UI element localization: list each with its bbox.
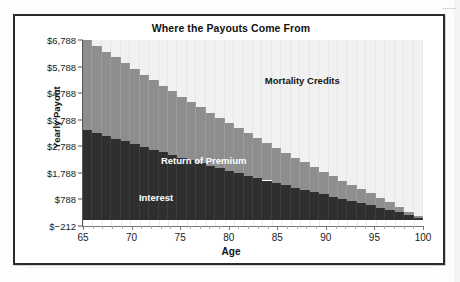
bar-segment-return-of-premium — [83, 40, 92, 130]
bar-segment-interest — [319, 194, 328, 220]
bar-segment-return-of-premium — [234, 128, 243, 173]
bar-segment-interest — [366, 205, 375, 220]
page-scan-edge — [454, 0, 460, 282]
bar-segment-mortality-credits — [168, 40, 177, 91]
y-axis-tick-mark — [78, 172, 83, 173]
bar-column — [92, 40, 101, 226]
bar-segment-mortality-credits — [319, 40, 328, 172]
bar-segment-interest — [385, 210, 394, 220]
bar-segment-return-of-premium — [159, 86, 168, 153]
x-axis-tick-minor — [112, 226, 113, 229]
bar-segment-return-of-premium — [414, 216, 423, 218]
bar-segment-mortality-credits — [130, 40, 139, 69]
bar-segment-interest — [130, 144, 139, 220]
bar-segment-interest — [102, 136, 111, 221]
bar-segment-interest — [177, 158, 186, 221]
x-axis-tick-minor — [170, 226, 171, 229]
bar-column — [310, 40, 319, 226]
bar-segment-mortality-credits — [272, 40, 281, 148]
bar-column — [329, 40, 338, 226]
bar-segment-mortality-credits — [196, 40, 205, 107]
x-axis-tick-minor — [151, 226, 152, 229]
bar-column — [366, 40, 375, 226]
x-axis-tick-minor — [345, 226, 346, 229]
bar-segment-return-of-premium — [338, 181, 347, 199]
bar-segment-return-of-premium — [385, 202, 394, 210]
bar-segment-mortality-credits — [262, 40, 271, 143]
bar-segment-mortality-credits — [300, 40, 309, 162]
bar-segment-mortality-credits — [338, 40, 347, 181]
figure-frame: Where the Payouts Come From Yearly Payou… — [13, 14, 445, 265]
x-axis-tick-minor — [141, 226, 142, 229]
bar-column — [225, 40, 234, 226]
bar-segment-interest — [253, 178, 262, 220]
bar-segment-mortality-credits — [253, 40, 262, 138]
bar-segment-mortality-credits — [215, 40, 224, 118]
bar-segment-return-of-premium — [102, 52, 111, 136]
bar-segment-interest — [92, 133, 101, 221]
bar-segment-mortality-credits — [111, 40, 120, 57]
bar-segment-mortality-credits — [92, 40, 101, 46]
x-axis-tick-mark — [374, 226, 375, 230]
bar-column — [300, 40, 309, 226]
bar-segment-mortality-credits — [121, 40, 130, 63]
bar-column — [215, 40, 224, 226]
bar-column — [262, 40, 271, 226]
bar-segment-return-of-premium — [92, 46, 101, 133]
bar-segment-return-of-premium — [281, 153, 290, 185]
bar-segment-interest — [187, 160, 196, 220]
bar-segment-interest — [234, 173, 243, 220]
bar-column — [357, 40, 366, 226]
bar-segment-interest — [149, 150, 158, 221]
bar-column — [404, 40, 413, 226]
bar-segment-return-of-premium — [300, 162, 309, 190]
x-axis-title: Age — [15, 246, 447, 257]
bar-segment-interest — [395, 212, 404, 220]
series-label-mortality-credits: Mortality Credits — [265, 74, 340, 85]
y-axis-tick-mark — [78, 40, 83, 41]
x-axis-tick-minor — [394, 226, 395, 229]
series-label-return-of-premium: Return of Premium — [161, 154, 247, 165]
x-axis-tick-minor — [355, 226, 356, 229]
x-axis-tick-minor — [248, 226, 249, 229]
bar-segment-return-of-premium — [291, 158, 300, 188]
x-axis-tick-mark — [277, 226, 278, 230]
bar-segment-return-of-premium — [376, 198, 385, 208]
bar-segment-mortality-credits — [159, 40, 168, 86]
x-axis-tick-label: 100 — [415, 232, 432, 243]
bar-column — [83, 40, 92, 226]
bar-segment-interest — [291, 188, 300, 221]
bar-segment-return-of-premium — [168, 91, 177, 155]
bar-segment-return-of-premium — [366, 193, 375, 205]
chart-screenshot: Where the Payouts Come From Yearly Payou… — [0, 0, 460, 282]
x-axis-tick-minor — [365, 226, 366, 229]
bar-column — [338, 40, 347, 226]
scan-artifact-bottom — [28, 267, 432, 268]
bar-segment-interest — [111, 139, 120, 221]
bar-segment-return-of-premium — [111, 57, 120, 138]
bar-segment-interest — [404, 215, 413, 220]
x-axis-tick-mark — [132, 226, 133, 230]
bar-segment-interest — [244, 176, 253, 221]
bar-column — [385, 40, 394, 226]
x-axis-tick-mark — [326, 226, 327, 230]
bar-segment-mortality-credits — [187, 40, 196, 102]
bar-segment-mortality-credits — [102, 40, 111, 52]
bar-segment-interest — [140, 147, 149, 220]
y-axis-tick-mark — [78, 93, 83, 94]
bar-segment-interest — [300, 190, 309, 220]
bar-segment-return-of-premium — [347, 185, 356, 201]
bar-column — [111, 40, 120, 226]
bar-column — [206, 40, 215, 226]
bar-segment-return-of-premium — [262, 143, 271, 180]
x-axis-tick-minor — [336, 226, 337, 229]
y-axis-tick-mark — [78, 66, 83, 67]
bar-segment-interest — [121, 141, 130, 220]
x-axis-tick-minor — [209, 226, 210, 229]
x-axis-tick-mark — [229, 226, 230, 230]
bar-segment-interest — [262, 181, 271, 221]
bar-segment-mortality-credits — [414, 40, 423, 216]
x-axis-tick-label: 75 — [175, 232, 186, 243]
bar-column — [281, 40, 290, 226]
bar-segment-interest — [357, 203, 366, 220]
